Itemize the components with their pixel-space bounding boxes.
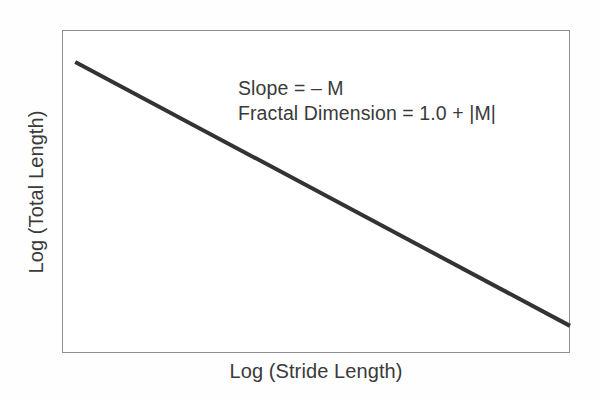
y-axis-label: Log (Total Length) [25, 110, 48, 273]
x-axis-label: Log (Stride Length) [62, 360, 570, 383]
y-axis-label-container: Log (Total Length) [16, 30, 56, 353]
annotation-line-slope: Slope = – M [238, 76, 548, 101]
annotation-text-block: Slope = – M Fractal Dimension = 1.0 + |M… [238, 76, 548, 126]
fractal-dimension-figure: Slope = – M Fractal Dimension = 1.0 + |M… [0, 0, 599, 399]
annotation-line-fractal-dimension: Fractal Dimension = 1.0 + |M| [238, 101, 548, 126]
